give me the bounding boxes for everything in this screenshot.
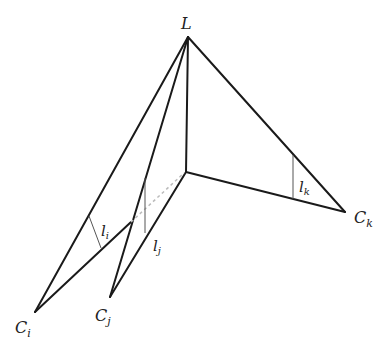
label-L: L [180,14,192,33]
label-lj: lj [153,237,161,256]
label-Cj: Cj [95,306,111,328]
edge-L-Ck [188,37,345,212]
geometry-diagram: L Ci Cj Ck li lj lk [0,0,388,349]
edge-L-Ci [35,37,188,312]
edge-Ci-X [35,222,131,312]
label-lk: lk [299,178,310,197]
label-li: li [101,222,109,241]
edge-O-Cj [110,172,186,297]
edge-O-Ck [186,172,345,212]
label-Ci: Ci [15,318,31,340]
edge-L-Cj [110,37,188,297]
edge-L-O [186,37,188,172]
segment-li [89,216,101,248]
label-Ck: Ck [354,208,373,230]
